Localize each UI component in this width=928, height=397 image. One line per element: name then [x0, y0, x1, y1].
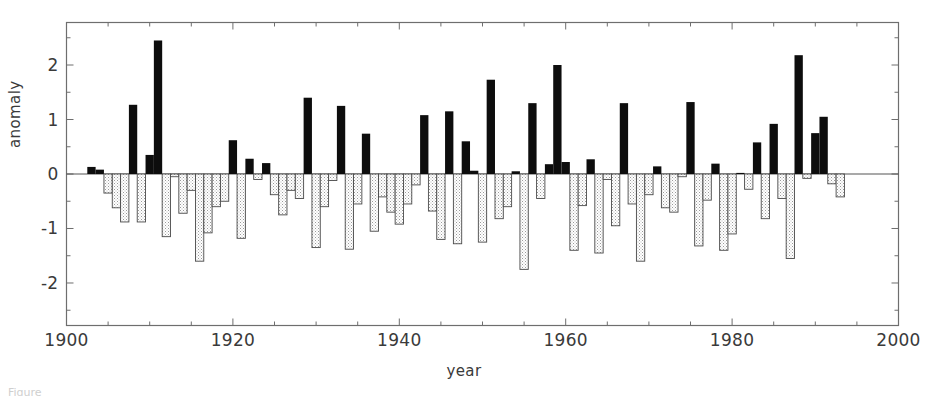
bar-1941 [403, 174, 411, 204]
x-tick-label-1940: 1940 [377, 330, 421, 350]
bar-1948 [462, 141, 470, 174]
bar-1985 [770, 124, 778, 174]
bar-1990 [811, 133, 819, 174]
bar-1940 [395, 174, 403, 224]
x-tick-label-1920: 1920 [211, 330, 255, 350]
bar-1903 [87, 167, 95, 174]
bar-1907 [121, 174, 129, 222]
bar-1951 [487, 80, 495, 174]
bar-1981 [736, 173, 744, 174]
bar-1929 [304, 98, 312, 174]
bar-1974 [678, 174, 686, 177]
bar-1937 [370, 174, 378, 231]
bar-1992 [828, 174, 836, 184]
x-tick-label-1960: 1960 [543, 330, 587, 350]
bar-1908 [129, 105, 137, 174]
bar-1927 [287, 174, 295, 190]
bar-1968 [628, 174, 636, 204]
bar-1977 [703, 174, 711, 200]
chart-plot-area [0, 0, 928, 397]
x-tick-label-2000: 2000 [876, 330, 920, 350]
bar-1969 [636, 174, 644, 261]
bar-1961 [570, 174, 578, 250]
bar-1932 [329, 174, 337, 181]
bar-1964 [595, 174, 603, 253]
bar-1975 [686, 102, 694, 174]
bar-1954 [512, 171, 520, 174]
bar-1917 [204, 174, 212, 233]
bar-1921 [237, 174, 245, 238]
bar-1938 [379, 174, 387, 197]
bar-1942 [412, 174, 420, 185]
figure-caption: Figure [8, 386, 508, 396]
bar-1913 [171, 174, 179, 177]
bar-1931 [320, 174, 328, 207]
y-tick-label--1: -1 [25, 218, 59, 238]
bar-1934 [345, 174, 353, 249]
bar-1946 [445, 111, 453, 174]
bar-1965 [603, 174, 611, 179]
bar-1991 [819, 117, 827, 174]
bar-1980 [728, 174, 736, 234]
bar-1904 [96, 170, 104, 174]
bar-1915 [187, 174, 195, 190]
bar-1920 [229, 140, 237, 174]
bar-1905 [104, 174, 112, 193]
bar-1944 [428, 174, 436, 211]
bar-1988 [795, 55, 803, 174]
bar-1959 [553, 65, 561, 174]
bar-1983 [753, 142, 761, 174]
bar-1987 [786, 174, 794, 258]
bar-1967 [620, 103, 628, 174]
bar-1960 [562, 162, 570, 174]
bar-1982 [745, 174, 753, 189]
x-tick-label-1900: 1900 [44, 330, 88, 350]
bar-1993 [836, 174, 844, 197]
bar-1986 [778, 174, 786, 199]
bar-1972 [661, 174, 669, 208]
bar-1924 [262, 163, 270, 174]
bar-1918 [212, 174, 220, 207]
bar-1970 [645, 174, 653, 195]
y-tick-label-0: 0 [25, 164, 59, 184]
bar-1956 [528, 103, 536, 174]
bar-1963 [587, 159, 595, 174]
bar-1925 [270, 174, 278, 195]
bar-1933 [337, 106, 345, 174]
y-tick-label--2: -2 [25, 273, 59, 293]
bar-1953 [503, 174, 511, 207]
bar-1952 [495, 174, 503, 219]
bar-1978 [711, 164, 719, 174]
bar-1989 [803, 174, 811, 178]
bar-1966 [611, 174, 619, 226]
bar-1919 [220, 174, 228, 201]
y-tick-label-1: 1 [25, 110, 59, 130]
bar-1935 [354, 174, 362, 204]
bar-1923 [254, 174, 262, 179]
bar-1910 [146, 155, 154, 174]
y-tick-label-2: 2 [25, 55, 59, 75]
bar-1930 [312, 174, 320, 248]
x-axis-label: year [0, 362, 928, 380]
bar-1914 [179, 174, 187, 213]
bar-1911 [154, 40, 162, 174]
bar-1950 [478, 174, 486, 242]
bar-1936 [362, 134, 370, 174]
bar-1926 [279, 174, 287, 215]
y-axis-label: anomaly [6, 28, 24, 148]
bar-1909 [137, 174, 145, 222]
bar-1962 [578, 174, 586, 206]
x-tick-label-1980: 1980 [710, 330, 754, 350]
bar-1958 [545, 164, 553, 174]
bar-1912 [162, 174, 170, 237]
bar-1957 [537, 174, 545, 199]
bar-1906 [112, 174, 120, 208]
bar-1943 [420, 115, 428, 174]
bar-1945 [437, 174, 445, 239]
bar-1928 [295, 174, 303, 199]
bar-1979 [720, 174, 728, 250]
bar-1922 [245, 159, 253, 174]
bar-1916 [195, 174, 203, 261]
bar-1971 [653, 166, 661, 174]
bar-1949 [470, 171, 478, 174]
